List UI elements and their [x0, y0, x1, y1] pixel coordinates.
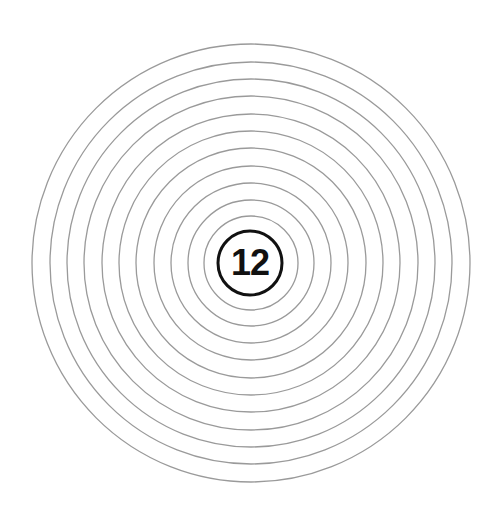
center-number-label: 12 [217, 230, 283, 296]
